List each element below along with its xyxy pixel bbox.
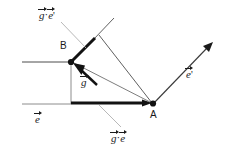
ray-a-to-upper-arm bbox=[99, 35, 152, 103]
vector-e-label: e bbox=[35, 110, 40, 126]
point-b-label: B bbox=[60, 41, 67, 51]
vector-e-prime-glyph: e bbox=[186, 69, 191, 80]
proj-g-e-prime-e-part: e bbox=[48, 10, 53, 21]
leader-line-bottom bbox=[99, 105, 121, 127]
vector-e-glyph: e bbox=[35, 114, 40, 125]
point-a-marker bbox=[150, 100, 156, 106]
prime-mark: ' bbox=[53, 10, 55, 21]
ray-upper-arm-extension bbox=[93, 18, 114, 40]
proj-g-e-prime-label: g·e' bbox=[39, 6, 55, 22]
prime-mark: ' bbox=[191, 69, 193, 80]
point-b-marker bbox=[68, 59, 74, 65]
vector-e-prime-shaft bbox=[153, 48, 207, 104]
proj-g-e-e-part: e bbox=[120, 133, 125, 144]
figure-root: g·e' B g e A g·e e' bbox=[0, 0, 232, 151]
vector-g-label: g bbox=[81, 73, 87, 89]
vector-e-prime-label: e' bbox=[186, 65, 193, 81]
point-a-label: A bbox=[150, 110, 157, 120]
vector-g-glyph: g bbox=[81, 77, 87, 88]
proj-g-e-label: g·e bbox=[111, 129, 125, 145]
projection-g-e-prime-thick bbox=[72, 38, 95, 61]
